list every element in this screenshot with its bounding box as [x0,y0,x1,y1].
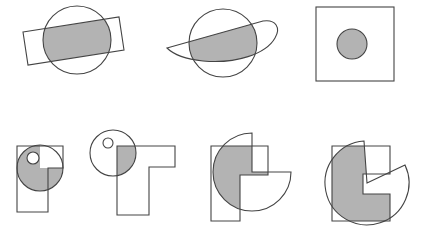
figure-6-reverse-l-pacman-overlap [211,133,291,221]
figure-5-intersection-shaded [117,146,175,215]
figure-4-l-polygon-circle-overlap [17,145,63,212]
geometry-figure-canvas [0,0,427,230]
figure-2-circle-lens-overlap [167,9,278,77]
figure-3-square-with-circle [316,7,394,81]
figure-5-t-polygon-circle-overlap [90,130,175,215]
figure-5-small-hole-circle [103,138,113,148]
figure-1-circle-rectangle-overlap [23,6,124,74]
figure-2-intersection-shaded [167,21,278,62]
figure-4-small-hole-circle [27,152,39,164]
figure-7-c-polygon-pacman-overlap [325,141,409,225]
figure-3-inner-circle [337,29,367,59]
